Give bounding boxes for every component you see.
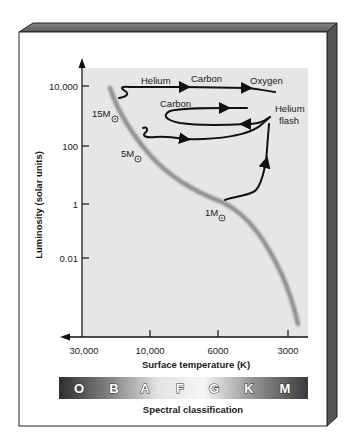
- label-helium-flash-line1: Helium: [275, 103, 305, 114]
- svg-text:15M: 15M: [92, 108, 111, 119]
- y-tick-0-01: 0.01: [60, 253, 79, 264]
- y-tick-100: 100: [62, 141, 78, 152]
- y-axis-title: Luminosity (solar units): [33, 151, 44, 259]
- label-carbon-top: Carbon: [191, 73, 222, 84]
- spectral-class-m: M: [280, 381, 291, 396]
- spectral-bar: O B A F G K M: [59, 377, 308, 399]
- svg-text:1M: 1M: [205, 207, 218, 218]
- spectral-title: Spectral classification: [143, 404, 244, 415]
- hr-diagram-svg: 10,000 100 1 0.01 Luminosity (solar unit…: [0, 0, 345, 442]
- spectral-class-a: A: [140, 381, 150, 396]
- label-helium-flash-line2: flash: [279, 115, 299, 126]
- spectral-class-f: F: [176, 381, 184, 396]
- spectral-class-b: B: [109, 381, 118, 396]
- label-oxygen: Oxygen: [250, 75, 283, 86]
- spectral-class-g: G: [209, 381, 219, 396]
- svg-text:5M: 5M: [121, 148, 134, 159]
- y-tick-10000: 10,000: [49, 81, 78, 92]
- hr-diagram-figure: 10,000 100 1 0.01 Luminosity (solar unit…: [0, 0, 345, 442]
- spectral-class-k: K: [244, 381, 254, 396]
- x-tick-3000: 3000: [277, 345, 298, 356]
- label-helium: Helium: [141, 75, 171, 86]
- x-tick-10000: 10,000: [135, 345, 164, 356]
- label-carbon-mid: Carbon: [160, 98, 191, 109]
- y-tick-1: 1: [73, 199, 78, 210]
- x-tick-30000: 30,000: [69, 345, 98, 356]
- track-15-msun-2: [185, 87, 247, 88]
- spectral-class-o: O: [74, 381, 84, 396]
- panel-side-bevel: [327, 23, 337, 426]
- x-axis-title: Surface temperature (K): [142, 359, 250, 370]
- panel-top-bevel: [19, 23, 337, 32]
- x-tick-6000: 6000: [207, 345, 228, 356]
